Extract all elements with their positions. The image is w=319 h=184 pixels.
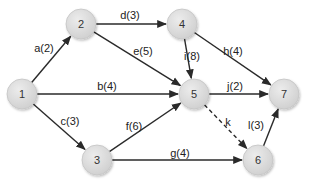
node-6: 6: [243, 145, 273, 175]
edge-i-label: i(8): [184, 50, 200, 62]
edge-l-label: l(3): [248, 119, 264, 131]
edge-e-arrow: [94, 32, 181, 86]
node-3: 3: [82, 145, 112, 175]
edge-l-arrow: [263, 109, 278, 146]
node-2: 2: [66, 9, 96, 39]
edge-j-label: j(2): [226, 80, 243, 92]
node-5: 5: [179, 79, 209, 109]
node-label: 7: [281, 88, 287, 100]
node-label: 6: [255, 154, 261, 166]
edge-k-label: k: [225, 116, 231, 128]
network-diagram: a(2)b(4)c(3)d(3)e(5)f(6)g(4)h(4)i(8)j(2)…: [0, 0, 319, 184]
edge-h-arrow: [194, 32, 270, 84]
node-label: 1: [19, 88, 25, 100]
edge-f-arrow: [109, 103, 180, 152]
node-label: 3: [94, 154, 100, 166]
edge-c-label: c(3): [61, 115, 80, 127]
node-1: 1: [7, 79, 37, 109]
node-4: 4: [167, 9, 197, 39]
edge-e-label: e(5): [133, 45, 153, 57]
edge-f-label: f(6): [126, 120, 143, 132]
edge-b-label: b(4): [97, 80, 117, 92]
node-label: 2: [78, 18, 84, 30]
edge-a-label: a(2): [34, 42, 54, 54]
edge-h-label: h(4): [223, 45, 243, 57]
nodes-layer: 1234567: [7, 9, 299, 175]
node-7: 7: [269, 79, 299, 109]
node-label: 4: [179, 18, 185, 30]
node-label: 5: [191, 88, 197, 100]
edge-g-label: g(4): [170, 147, 190, 159]
edge-d-label: d(3): [120, 9, 140, 21]
